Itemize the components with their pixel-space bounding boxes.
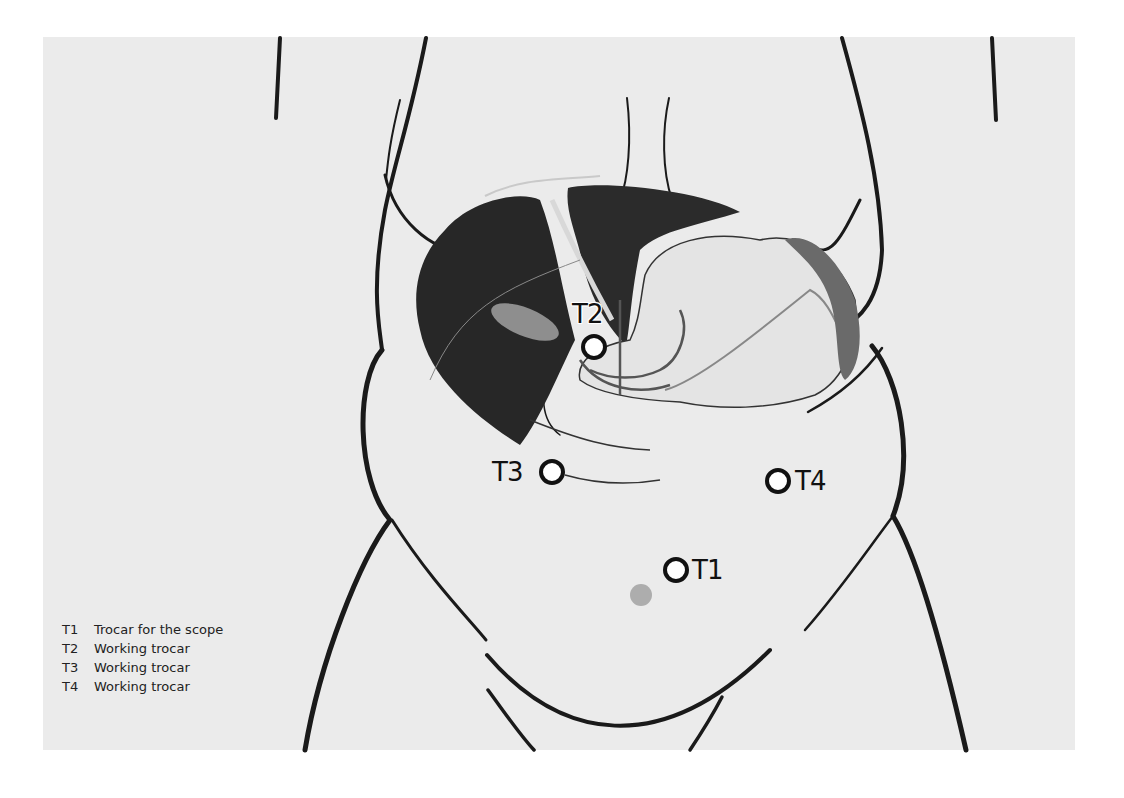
right-arm-outline xyxy=(992,38,996,120)
legend-key: T4 xyxy=(62,677,94,696)
port-t3-label: T3 xyxy=(492,459,522,485)
legend-key: T1 xyxy=(62,620,94,639)
right-waist-outline xyxy=(872,346,966,750)
legend-text: Working trocar xyxy=(94,658,190,677)
port-t2-label: T2 xyxy=(572,301,602,327)
legend-text: Working trocar xyxy=(94,639,190,658)
port-t1-label: T1 xyxy=(692,557,722,583)
port-t2-marker xyxy=(583,336,605,358)
port-t4-label: T4 xyxy=(795,468,825,494)
left-waist-outline xyxy=(305,350,390,750)
port-t4-marker xyxy=(767,470,789,492)
legend-text: Working trocar xyxy=(94,677,190,696)
umbilicus xyxy=(630,584,652,606)
left-arm-outline xyxy=(276,38,280,118)
legend-row: T2 Working trocar xyxy=(62,639,223,658)
legend-row: T1 Trocar for the scope xyxy=(62,620,223,639)
legend-key: T3 xyxy=(62,658,94,677)
legend-row: T3 Working trocar xyxy=(62,658,223,677)
port-t3-marker xyxy=(541,461,563,483)
legend-text: Trocar for the scope xyxy=(94,620,223,639)
legend: T1 Trocar for the scope T2 Working troca… xyxy=(62,620,223,696)
legend-row: T4 Working trocar xyxy=(62,677,223,696)
legend-key: T2 xyxy=(62,639,94,658)
port-t1-marker xyxy=(665,559,687,581)
groin-curve xyxy=(487,650,770,726)
